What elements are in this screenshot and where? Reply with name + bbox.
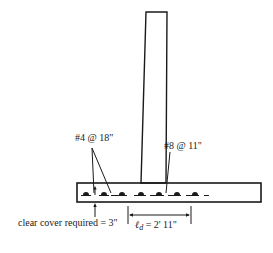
label-top-bars: #4 @ 18": [75, 132, 113, 143]
rebar-1: [83, 192, 89, 195]
retaining-wall-diagram: #4 @ 18" #8 @ 11" clear cover required =…: [0, 0, 273, 253]
leader-top-bars: [92, 148, 111, 193]
label-clear-cover: clear cover required = 3": [18, 217, 118, 228]
wall-stem: [141, 12, 167, 183]
label-main-bars: #8 @ 11": [164, 140, 202, 151]
rebar-7: [192, 192, 198, 195]
cover-arrow: [93, 203, 96, 217]
dev-length-value: = 2' 11": [143, 219, 177, 230]
rebar-6: [174, 192, 180, 195]
label-development-length: ℓd = 2' 11": [135, 219, 177, 232]
rebar-4: [138, 192, 144, 195]
rebar-3: [119, 192, 125, 195]
rebar-row: [81, 192, 209, 196]
rebar-2: [101, 192, 107, 195]
rebar-5: [156, 192, 162, 195]
